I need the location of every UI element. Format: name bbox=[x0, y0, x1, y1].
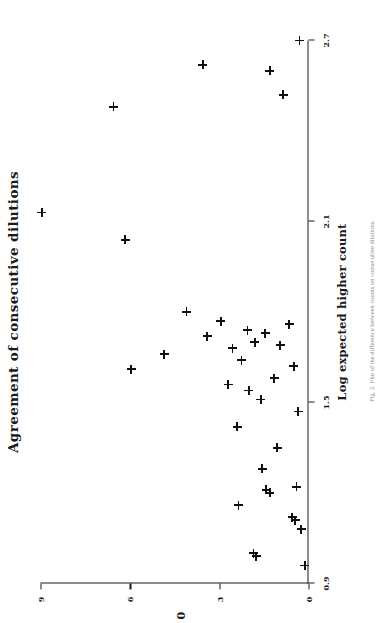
scatter-point bbox=[251, 551, 260, 560]
scatter-point bbox=[223, 379, 232, 388]
scatter-point bbox=[256, 394, 265, 403]
figure-inner: Agreement of consecutive dilutions 0.91.… bbox=[0, 0, 382, 623]
scatter-point bbox=[272, 443, 281, 452]
scatter-point bbox=[250, 337, 259, 346]
y-tick-mark bbox=[40, 583, 41, 589]
scatter-point bbox=[108, 102, 117, 111]
scatter-point bbox=[295, 36, 304, 45]
scatter-point bbox=[292, 482, 301, 491]
scatter-point bbox=[265, 488, 274, 497]
scatter-point bbox=[228, 343, 237, 352]
x-tick-label: 1.5 bbox=[320, 395, 330, 409]
x-tick-mark bbox=[308, 220, 314, 221]
scatter-point bbox=[181, 307, 190, 316]
scatter-point bbox=[159, 349, 168, 358]
y-axis-spine bbox=[40, 582, 308, 583]
x-axis-title: Log expected higher count bbox=[334, 40, 348, 583]
scatter-point bbox=[120, 235, 129, 244]
figure-root: Agreement of consecutive dilutions 0.91.… bbox=[0, 0, 382, 623]
y-tick-label: 9 bbox=[35, 596, 45, 602]
scatter-point bbox=[232, 422, 241, 431]
y-tick-mark bbox=[219, 583, 220, 589]
scatter-point bbox=[126, 364, 135, 373]
scatter-point bbox=[265, 66, 274, 75]
scatter-point bbox=[290, 515, 299, 524]
x-tick-mark bbox=[308, 39, 314, 40]
scatter-point bbox=[244, 385, 253, 394]
y-tick-label: 6 bbox=[124, 596, 134, 602]
scatter-point bbox=[242, 325, 251, 334]
rotated-figure-wrapper: Agreement of consecutive dilutions 0.91.… bbox=[0, 0, 382, 623]
x-tick-label: 2.1 bbox=[320, 214, 330, 228]
x-tick-mark bbox=[308, 401, 314, 402]
y-axis-title: 0 bbox=[174, 611, 187, 619]
scatter-point bbox=[275, 340, 284, 349]
scatter-point bbox=[260, 328, 269, 337]
y-tick-label: 3 bbox=[214, 596, 224, 602]
x-tick-label: 0.9 bbox=[320, 576, 330, 590]
scatter-point bbox=[37, 207, 46, 216]
scatter-point bbox=[234, 500, 243, 509]
scatter-point bbox=[296, 524, 305, 533]
y-tick-mark bbox=[129, 583, 130, 589]
scatter-point bbox=[269, 373, 278, 382]
scatter-point bbox=[278, 90, 287, 99]
scatter-point bbox=[202, 331, 211, 340]
x-axis-spine bbox=[307, 40, 308, 583]
scatter-point bbox=[198, 60, 207, 69]
scatter-point bbox=[237, 355, 246, 364]
scatter-point bbox=[284, 319, 293, 328]
y-tick-mark bbox=[308, 583, 309, 589]
y-tick-label: 0 bbox=[303, 596, 313, 602]
scatter-point bbox=[293, 407, 302, 416]
scatter-point bbox=[289, 361, 298, 370]
x-tick-label: 2.7 bbox=[320, 33, 330, 47]
scatter-point bbox=[216, 316, 225, 325]
scatter-point bbox=[257, 464, 266, 473]
chart-title: Agreement of consecutive dilutions bbox=[4, 0, 20, 623]
scatter-point bbox=[300, 560, 309, 569]
plot-area: 0.91.52.12.7 0369 bbox=[40, 40, 308, 583]
